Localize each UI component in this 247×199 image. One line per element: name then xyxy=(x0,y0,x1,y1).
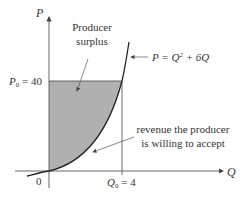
revenue-label-1: revenue the producer xyxy=(137,123,230,135)
origin-label: 0 xyxy=(36,175,42,187)
p0-label: P0 = 40 xyxy=(8,75,42,89)
curve-equation: P = Q2 + 6Q xyxy=(151,51,209,63)
q0-label: Q0 = 4 xyxy=(107,176,136,190)
producer-surplus-label-1: Producer xyxy=(72,21,112,33)
producer-surplus-area xyxy=(49,81,122,171)
p-axis-label: P xyxy=(35,6,44,20)
revenue-label-2: is willing to accept xyxy=(141,137,224,149)
supply-chart: P Q 0 P0 = 40 Q0 = 4 P = Q2 + 6Q Produce… xyxy=(0,0,247,199)
rev-arrow xyxy=(93,137,134,152)
producer-surplus-label-2: surplus xyxy=(76,35,108,47)
q-axis-label: Q xyxy=(227,165,236,179)
